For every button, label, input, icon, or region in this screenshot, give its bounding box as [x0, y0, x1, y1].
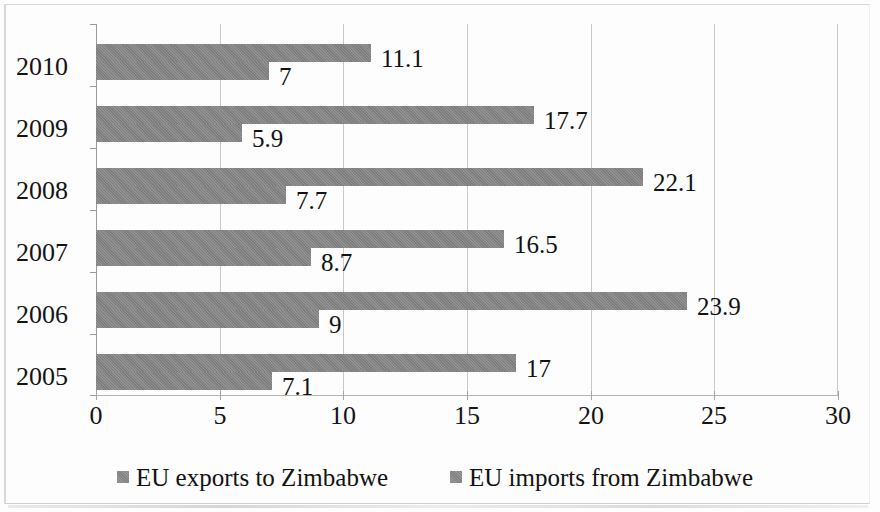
- bar-value-imports-2009: 5.9: [252, 126, 283, 151]
- x-axis-tick: [96, 391, 97, 400]
- bar-value-exports-2008: 22.1: [653, 170, 697, 195]
- bar-chart: 2010 11.1 7 2009 17.7 5.9 2008 22.1 7.7 …: [0, 0, 880, 512]
- x-axis-label-25: 25: [684, 403, 744, 429]
- category-label-2007: 2007: [16, 240, 90, 266]
- legend-swatch-icon: [117, 471, 129, 483]
- y-axis-tick: [90, 24, 96, 25]
- bar-imports-2005: [96, 372, 272, 390]
- y-axis-tick: [90, 272, 96, 273]
- bar-value-imports-2005: 7.1: [282, 374, 313, 399]
- legend-entry-exports: EU exports to Zimbabwe: [117, 460, 388, 494]
- bar-imports-2006: [96, 310, 319, 328]
- category-label-2010: 2010: [16, 54, 90, 80]
- y-axis-tick: [90, 334, 96, 335]
- gridline-10: [343, 24, 344, 396]
- bar-imports-2008: [96, 186, 286, 204]
- bar-value-imports-2010: 7: [279, 64, 292, 89]
- category-label-2009: 2009: [16, 116, 90, 142]
- y-axis-tick: [90, 210, 96, 211]
- chart-legend: EU exports to Zimbabwe EU imports from Z…: [0, 460, 880, 494]
- category-label-2008: 2008: [16, 178, 90, 204]
- bar-exports-2006: [96, 292, 687, 310]
- page-bottom-edge: [8, 505, 868, 508]
- bar-value-exports-2006: 23.9: [697, 294, 741, 319]
- bar-value-imports-2008: 7.7: [296, 188, 327, 213]
- x-axis-tick: [220, 391, 221, 400]
- category-label-2006: 2006: [16, 302, 90, 328]
- x-axis-label-20: 20: [561, 403, 621, 429]
- gridline-25: [714, 24, 715, 396]
- bar-value-exports-2007: 16.5: [514, 232, 558, 257]
- bar-value-exports-2010: 11.1: [381, 46, 424, 71]
- chart-page: 2010 11.1 7 2009 17.7 5.9 2008 22.1 7.7 …: [0, 0, 880, 512]
- legend-label-imports: EU imports from Zimbabwe: [469, 465, 753, 490]
- y-axis-tick: [90, 148, 96, 149]
- bar-exports-2007: [96, 230, 504, 248]
- x-axis-tick: [714, 391, 715, 400]
- legend-entry-imports: EU imports from Zimbabwe: [450, 460, 753, 494]
- x-axis-label-30: 30: [808, 403, 868, 429]
- y-axis-tick: [90, 86, 96, 87]
- bar-value-imports-2007: 8.7: [321, 250, 352, 275]
- x-axis-tick: [343, 391, 344, 400]
- category-label-2005: 2005: [16, 364, 90, 390]
- bar-exports-2008: [96, 168, 643, 186]
- x-axis-label-15: 15: [437, 403, 497, 429]
- x-axis-tick: [838, 391, 839, 400]
- gridline-30: [837, 24, 838, 396]
- x-axis-label-5: 5: [190, 403, 250, 429]
- bar-imports-2009: [96, 124, 242, 142]
- legend-swatch-icon: [450, 471, 462, 483]
- bar-exports-2010: [96, 44, 371, 62]
- bar-value-exports-2005: 17: [526, 356, 551, 381]
- bar-value-exports-2009: 17.7: [544, 108, 588, 133]
- gridline-20: [591, 24, 592, 396]
- gridline-15: [467, 24, 468, 396]
- x-axis-tick: [467, 391, 468, 400]
- x-axis-label-10: 10: [313, 403, 373, 429]
- bar-value-imports-2006: 9: [329, 312, 342, 337]
- legend-label-exports: EU exports to Zimbabwe: [136, 465, 388, 490]
- bar-imports-2007: [96, 248, 311, 266]
- x-axis-tick: [591, 391, 592, 400]
- bar-exports-2005: [96, 354, 516, 372]
- bar-exports-2009: [96, 106, 534, 124]
- bar-imports-2010: [96, 62, 269, 80]
- x-axis-label-0: 0: [66, 403, 126, 429]
